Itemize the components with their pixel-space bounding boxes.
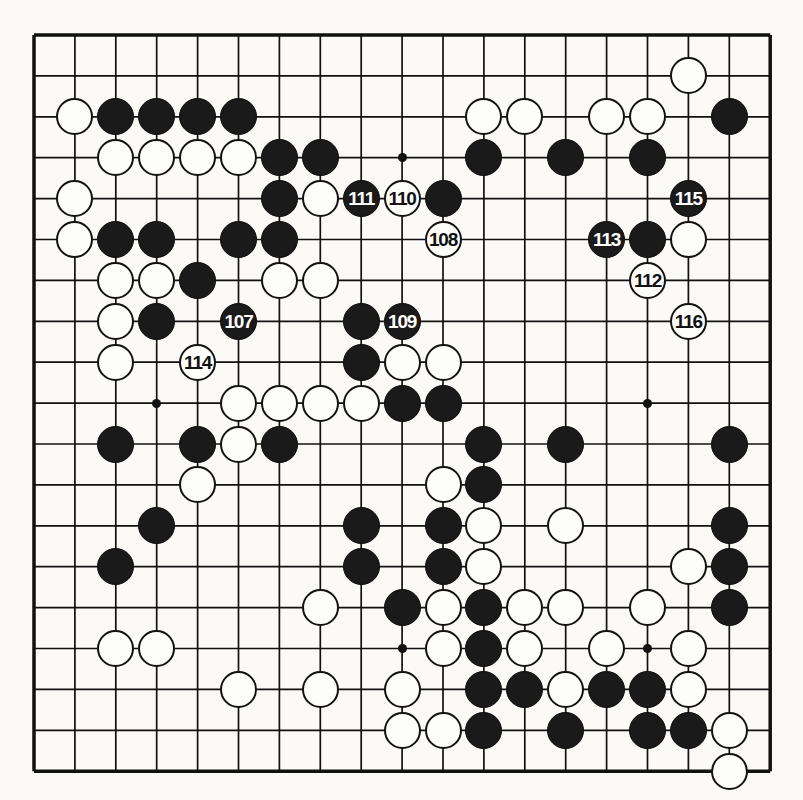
- white-stone[interactable]: [588, 630, 625, 667]
- white-stone[interactable]: [97, 262, 134, 299]
- black-stone[interactable]: [343, 548, 380, 585]
- black-stone[interactable]: [588, 671, 625, 708]
- black-stone[interactable]: [629, 671, 666, 708]
- move-stone-108[interactable]: 108: [425, 221, 462, 258]
- black-stone[interactable]: [629, 139, 666, 176]
- white-stone[interactable]: [629, 589, 666, 626]
- black-stone[interactable]: [302, 139, 339, 176]
- move-number-label: 107: [224, 312, 252, 331]
- move-number-label: 110: [389, 189, 416, 208]
- black-stone[interactable]: [425, 507, 462, 544]
- move-stone-113[interactable]: 113: [588, 221, 625, 258]
- white-stone[interactable]: [302, 671, 339, 708]
- black-stone[interactable]: [261, 426, 298, 463]
- black-stone[interactable]: [465, 712, 502, 749]
- black-stone[interactable]: [547, 712, 584, 749]
- white-stone[interactable]: [302, 385, 339, 422]
- move-stone-109[interactable]: 109: [384, 303, 421, 340]
- black-stone[interactable]: [711, 589, 748, 626]
- black-stone[interactable]: [261, 139, 298, 176]
- go-board[interactable]: 111110115108113112107109116114: [0, 0, 803, 800]
- white-stone[interactable]: [384, 712, 421, 749]
- white-stone[interactable]: [670, 630, 707, 667]
- white-stone[interactable]: [547, 589, 584, 626]
- black-stone[interactable]: [711, 507, 748, 544]
- black-stone[interactable]: [179, 262, 216, 299]
- black-stone[interactable]: [425, 548, 462, 585]
- black-stone[interactable]: [343, 344, 380, 381]
- black-stone[interactable]: [547, 426, 584, 463]
- move-stone-116[interactable]: 116: [670, 303, 707, 340]
- black-stone[interactable]: [384, 589, 421, 626]
- white-stone[interactable]: [670, 671, 707, 708]
- white-stone[interactable]: [97, 303, 134, 340]
- white-stone[interactable]: [97, 344, 134, 381]
- white-stone[interactable]: [261, 262, 298, 299]
- move-number-label: 109: [388, 312, 416, 331]
- go-diagram-page: 111110115108113112107109116114: [0, 0, 803, 800]
- black-stone[interactable]: [261, 221, 298, 258]
- star-point: [152, 399, 161, 408]
- white-stone[interactable]: [670, 221, 707, 258]
- move-stone-115[interactable]: 115: [670, 180, 707, 217]
- white-stone[interactable]: [425, 466, 462, 503]
- black-stone[interactable]: [711, 426, 748, 463]
- black-stone[interactable]: [465, 426, 502, 463]
- white-stone[interactable]: [670, 57, 707, 94]
- white-stone[interactable]: [425, 630, 462, 667]
- black-stone[interactable]: [711, 548, 748, 585]
- white-stone[interactable]: [261, 385, 298, 422]
- star-point: [398, 644, 407, 653]
- black-stone[interactable]: [425, 180, 462, 217]
- white-stone[interactable]: [138, 630, 175, 667]
- white-stone[interactable]: [343, 385, 380, 422]
- white-stone[interactable]: [302, 180, 339, 217]
- star-point: [398, 153, 407, 162]
- move-stone-112[interactable]: 112: [629, 262, 666, 299]
- move-number-label: 111: [348, 189, 374, 208]
- white-stone[interactable]: [302, 262, 339, 299]
- white-stone[interactable]: [547, 671, 584, 708]
- white-stone[interactable]: [711, 753, 748, 790]
- white-stone[interactable]: [425, 589, 462, 626]
- black-stone[interactable]: [629, 221, 666, 258]
- white-stone[interactable]: [670, 548, 707, 585]
- black-stone[interactable]: [384, 385, 421, 422]
- black-stone[interactable]: [343, 303, 380, 340]
- black-stone[interactable]: [629, 712, 666, 749]
- black-stone[interactable]: [425, 385, 462, 422]
- move-number-label: 113: [593, 230, 620, 249]
- white-stone[interactable]: [425, 344, 462, 381]
- black-stone[interactable]: [179, 426, 216, 463]
- black-stone[interactable]: [138, 303, 175, 340]
- move-number-label: 112: [634, 271, 661, 290]
- star-point: [643, 399, 652, 408]
- black-stone[interactable]: [711, 98, 748, 135]
- black-stone[interactable]: [465, 671, 502, 708]
- white-stone[interactable]: [220, 426, 257, 463]
- black-stone[interactable]: [220, 221, 257, 258]
- black-stone[interactable]: [261, 180, 298, 217]
- move-stone-114[interactable]: 114: [179, 344, 216, 381]
- white-stone[interactable]: [179, 139, 216, 176]
- black-stone[interactable]: [670, 712, 707, 749]
- white-stone[interactable]: [220, 385, 257, 422]
- move-stone-107[interactable]: 107: [220, 303, 257, 340]
- move-stone-111[interactable]: 111: [343, 180, 380, 217]
- white-stone[interactable]: [138, 262, 175, 299]
- black-stone[interactable]: [97, 426, 134, 463]
- move-number-label: 114: [184, 353, 211, 372]
- black-stone[interactable]: [138, 221, 175, 258]
- white-stone[interactable]: [425, 712, 462, 749]
- white-stone[interactable]: [384, 671, 421, 708]
- white-stone[interactable]: [220, 139, 257, 176]
- star-point: [643, 644, 652, 653]
- white-stone[interactable]: [302, 589, 339, 626]
- white-stone[interactable]: [220, 671, 257, 708]
- black-stone[interactable]: [506, 671, 543, 708]
- white-stone[interactable]: [711, 712, 748, 749]
- move-number-label: 115: [675, 189, 702, 208]
- white-stone[interactable]: [384, 344, 421, 381]
- move-stone-110[interactable]: 110: [384, 180, 421, 217]
- black-stone[interactable]: [343, 507, 380, 544]
